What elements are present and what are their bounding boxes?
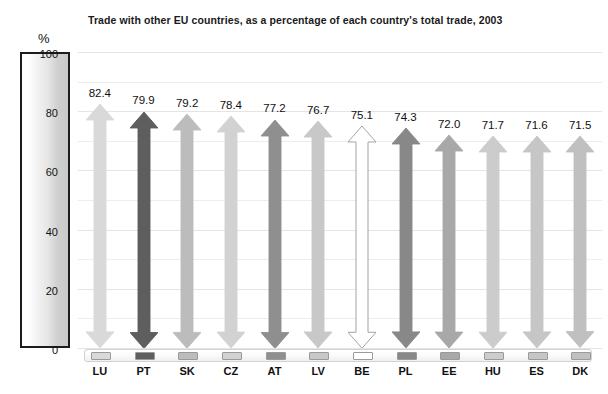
double-headed-arrow-icon bbox=[304, 121, 332, 348]
arrow-bar[interactable] bbox=[560, 136, 600, 348]
arrow-bar[interactable] bbox=[124, 112, 164, 349]
legend-swatch-cz[interactable] bbox=[222, 352, 242, 360]
legend-swatch-ee[interactable] bbox=[440, 352, 460, 360]
legend-swatch-lu[interactable] bbox=[91, 352, 111, 360]
chart-container: Trade with other EU countries, as a perc… bbox=[0, 0, 608, 394]
arrow-bar[interactable] bbox=[80, 104, 120, 348]
double-headed-arrow-icon bbox=[479, 136, 507, 348]
legend-swatch-lv[interactable] bbox=[309, 352, 329, 360]
double-headed-arrow-icon bbox=[217, 116, 245, 348]
legend-swatch-pt[interactable] bbox=[135, 352, 155, 360]
arrow-bar[interactable] bbox=[386, 128, 426, 348]
double-headed-arrow-icon bbox=[348, 126, 376, 348]
legend-swatch-pl[interactable] bbox=[397, 352, 417, 360]
double-headed-arrow-icon bbox=[523, 136, 551, 348]
double-headed-arrow-icon bbox=[130, 112, 158, 349]
gridline bbox=[78, 52, 602, 53]
y-axis-scale-box: 100806040200 bbox=[20, 52, 70, 348]
arrow-bar[interactable] bbox=[211, 116, 251, 348]
double-headed-arrow-icon bbox=[566, 136, 594, 348]
y-axis-tick-label: 80 bbox=[46, 107, 58, 119]
arrow-bar[interactable] bbox=[167, 114, 207, 348]
y-axis-tick-label: 0 bbox=[52, 344, 58, 356]
legend-swatch-es[interactable] bbox=[528, 352, 548, 360]
chart-title: Trade with other EU countries, as a perc… bbox=[88, 14, 598, 26]
plot-area: 82.479.979.278.477.276.775.174.372.071.7… bbox=[78, 52, 602, 348]
y-axis-tick-label: 100 bbox=[40, 48, 58, 60]
double-headed-arrow-icon bbox=[392, 128, 420, 348]
double-headed-arrow-icon bbox=[435, 135, 463, 348]
gridline bbox=[78, 82, 602, 83]
double-headed-arrow-icon bbox=[173, 114, 201, 348]
arrow-bar[interactable] bbox=[473, 136, 513, 348]
legend-swatch-dk[interactable] bbox=[571, 352, 591, 360]
y-axis-tick-label: 60 bbox=[46, 166, 58, 178]
arrow-bar[interactable] bbox=[255, 120, 295, 349]
arrow-bar[interactable] bbox=[342, 126, 382, 348]
legend-swatch-at[interactable] bbox=[266, 352, 286, 360]
arrow-bar[interactable] bbox=[517, 136, 557, 348]
legend-swatch-hu[interactable] bbox=[484, 352, 504, 360]
legend-strip bbox=[84, 349, 592, 362]
arrow-bar[interactable] bbox=[429, 135, 469, 348]
y-axis-tick-label: 20 bbox=[46, 285, 58, 297]
legend-swatch-be[interactable] bbox=[353, 352, 373, 360]
legend-swatch-sk[interactable] bbox=[178, 352, 198, 360]
x-axis-label-dk: DK bbox=[550, 365, 608, 377]
double-headed-arrow-icon bbox=[86, 104, 114, 348]
double-headed-arrow-icon bbox=[261, 120, 289, 349]
arrow-bar[interactable] bbox=[298, 121, 338, 348]
y-axis-tick-label: 40 bbox=[46, 226, 58, 238]
y-axis-unit-label: % bbox=[38, 31, 50, 46]
value-label: 71.5 bbox=[552, 119, 608, 131]
